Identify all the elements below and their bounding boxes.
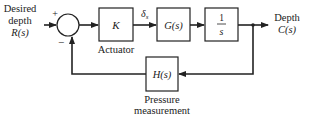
integrator-denominator: s: [220, 26, 224, 37]
sensor-label: H(s): [152, 69, 172, 81]
sensor-caption-line1: Pressure: [144, 94, 180, 105]
actuator-caption: Actuator: [98, 44, 135, 55]
input-label-line2: depth: [8, 15, 32, 26]
sensor-caption-line2: measurement: [134, 105, 190, 116]
input-label-line3: R(s): [10, 27, 29, 39]
block-diagram: Desired depth R(s) + − K Actuator δs G(s…: [0, 0, 317, 116]
integrator-numerator: 1: [219, 13, 224, 23]
actuator-gain-label: K: [111, 19, 120, 31]
output-label-line2: C(s): [278, 24, 297, 36]
minus-sign: −: [58, 36, 64, 48]
delta-s-label: δs: [141, 8, 149, 21]
feedback-path-to-junction: [72, 37, 146, 74]
plus-sign: +: [52, 8, 58, 19]
input-label-line1: Desired: [4, 3, 37, 14]
summing-junction: [57, 14, 79, 36]
plant-label: G(s): [164, 20, 183, 32]
input-label: Desired depth R(s): [4, 3, 37, 39]
output-label-line1: Depth: [274, 12, 300, 23]
